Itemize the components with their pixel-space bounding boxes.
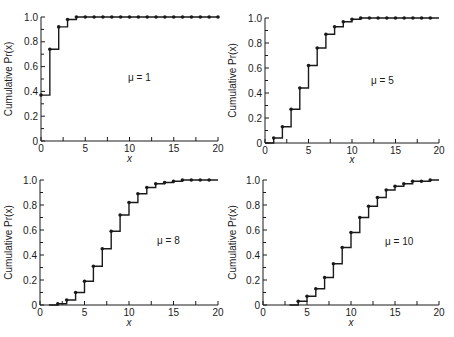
data-points xyxy=(56,178,211,305)
axes: 00.20.40.60.81.005101520 xyxy=(246,175,445,319)
x-tick-label: 0 xyxy=(38,143,44,154)
data-point xyxy=(154,15,158,19)
x-tick-label: 5 xyxy=(82,143,88,154)
data-point xyxy=(342,20,346,24)
data-point xyxy=(172,179,176,183)
data-point xyxy=(411,179,415,183)
data-point xyxy=(128,15,132,19)
data-point xyxy=(101,247,105,251)
data-point xyxy=(298,86,302,90)
y-axis-title: Cumulative Pr(x) xyxy=(227,43,238,117)
chart-panel-mu-1: 00.20.40.60.81.005101520xCumulative Pr(x… xyxy=(3,12,224,165)
y-tick-label: 0.6 xyxy=(23,225,37,236)
data-point xyxy=(66,18,70,22)
data-point xyxy=(190,178,194,182)
y-axis-title: Cumulative Pr(x) xyxy=(3,42,14,116)
data-point xyxy=(314,287,318,291)
data-point xyxy=(57,25,61,29)
x-tick-label: 5 xyxy=(306,145,312,156)
data-point xyxy=(83,279,87,283)
data-point xyxy=(118,213,122,217)
data-point xyxy=(350,17,354,21)
data-point xyxy=(163,181,167,185)
y-tick-label: 0.4 xyxy=(248,88,262,99)
cdf-step-line xyxy=(289,180,439,305)
data-point xyxy=(110,15,114,19)
x-tick-label: 0 xyxy=(262,145,268,156)
y-tick-label: 1.0 xyxy=(23,175,37,186)
data-point xyxy=(384,188,388,192)
data-point xyxy=(119,15,123,19)
y-tick-label: 0.8 xyxy=(24,36,38,47)
data-point xyxy=(305,294,309,298)
data-point xyxy=(429,16,433,20)
data-point xyxy=(65,298,69,302)
data-point xyxy=(333,25,337,29)
data-point xyxy=(296,299,300,303)
data-point xyxy=(75,15,79,19)
data-point xyxy=(367,204,371,208)
data-point xyxy=(199,15,203,19)
y-axis-title: Cumulative Pr(x) xyxy=(227,205,238,279)
data-point xyxy=(394,16,398,20)
mu-annotation: μ = 5 xyxy=(371,75,394,86)
x-axis-title: x xyxy=(348,317,355,328)
mu-annotation: μ = 8 xyxy=(157,235,180,246)
data-point xyxy=(92,15,96,19)
data-point xyxy=(190,15,194,19)
y-tick-label: 0.8 xyxy=(246,200,260,211)
data-point xyxy=(198,178,202,182)
y-tick-label: 1.0 xyxy=(246,175,260,186)
data-point xyxy=(420,179,424,183)
x-tick-label: 0 xyxy=(37,307,43,318)
x-axis-title: x xyxy=(126,317,133,328)
y-tick-label: 0.2 xyxy=(248,113,262,124)
axes: 00.20.40.60.81.005101520 xyxy=(24,12,224,155)
y-tick-label: 0.6 xyxy=(24,61,38,72)
axes: 00.20.40.60.81.005101520 xyxy=(23,175,224,319)
data-point xyxy=(39,93,43,97)
data-point xyxy=(332,262,336,266)
y-tick-label: 0.2 xyxy=(246,275,260,286)
data-point xyxy=(376,196,380,200)
data-point xyxy=(92,264,96,268)
cdf-step-line xyxy=(49,180,218,305)
y-tick-label: 1.0 xyxy=(24,12,38,23)
data-point xyxy=(136,192,140,196)
data-point xyxy=(145,15,149,19)
data-point xyxy=(349,231,353,235)
data-point xyxy=(181,178,185,182)
data-point xyxy=(323,276,327,280)
data-point xyxy=(402,16,406,20)
data-point xyxy=(101,15,105,19)
mu-annotation: μ = 1 xyxy=(128,72,151,83)
data-point xyxy=(376,16,380,20)
chart-panel-mu-5: 00.20.40.60.81.005101520xCumulative Pr(x… xyxy=(227,13,445,166)
x-axis-title: x xyxy=(126,153,133,164)
data-point xyxy=(272,136,276,140)
axes: 00.20.40.60.81.005101520 xyxy=(248,13,445,157)
y-tick-label: 0.4 xyxy=(23,250,37,261)
y-tick-label: 0.2 xyxy=(24,111,38,122)
x-tick-label: 15 xyxy=(168,307,180,318)
data-point xyxy=(324,32,328,36)
figure: 00.20.40.60.81.005101520xCumulative Pr(x… xyxy=(0,0,454,337)
data-point xyxy=(48,47,52,51)
data-points xyxy=(272,16,432,140)
data-point xyxy=(358,216,362,220)
data-point xyxy=(207,15,211,19)
data-point xyxy=(83,15,87,19)
y-axis-title: Cumulative Pr(x) xyxy=(3,205,14,279)
data-point xyxy=(216,15,220,19)
x-tick-label: 5 xyxy=(304,307,310,318)
data-point xyxy=(109,229,113,233)
data-point xyxy=(281,125,285,129)
data-point xyxy=(385,16,389,20)
data-point xyxy=(340,246,344,250)
data-point xyxy=(368,16,372,20)
x-tick-label: 15 xyxy=(390,145,402,156)
y-tick-label: 0.8 xyxy=(23,200,37,211)
x-tick-label: 20 xyxy=(212,307,224,318)
data-point xyxy=(163,15,167,19)
data-point xyxy=(207,178,211,182)
